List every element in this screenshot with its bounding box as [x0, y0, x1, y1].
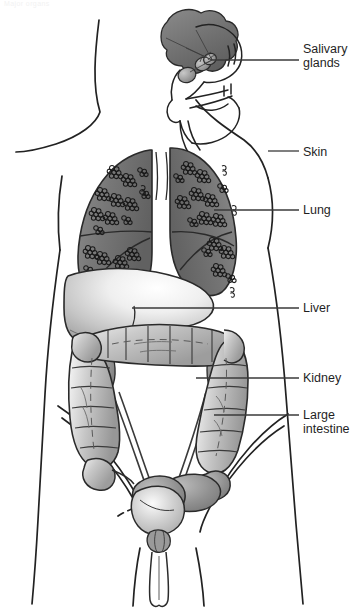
label-kidney: Kidney: [303, 371, 341, 385]
label-salivary-glands: Salivary glands: [303, 42, 347, 70]
right-lung: [170, 148, 236, 297]
prostate: [147, 530, 170, 552]
label-lung: Lung: [303, 203, 331, 217]
label-liver: Liver: [303, 301, 330, 315]
trachea: [156, 152, 168, 200]
label-skin: Skin: [303, 145, 327, 159]
bladder: [131, 486, 184, 535]
urethra-penis: [150, 552, 169, 606]
label-large-intestine: Large intestine: [303, 408, 350, 436]
